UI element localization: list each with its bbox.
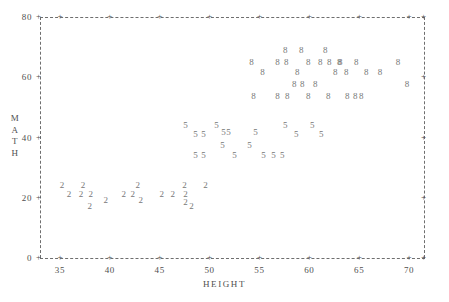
data-point-5: 5 bbox=[230, 151, 238, 160]
x-tick-mark: + bbox=[57, 253, 62, 262]
data-point-8: 8 bbox=[297, 46, 305, 55]
y-tick-mark: + bbox=[36, 253, 41, 262]
data-point-8: 8 bbox=[403, 80, 411, 89]
data-point-2: 2 bbox=[86, 202, 94, 211]
plot-frame-bottom bbox=[40, 258, 425, 259]
y-tick-mark: + bbox=[36, 133, 41, 142]
x-tick-label: 40 bbox=[98, 265, 122, 275]
x-tick-label: 55 bbox=[247, 265, 271, 275]
data-point-8: 8 bbox=[362, 68, 370, 77]
y-tick-label: 80 bbox=[6, 12, 32, 22]
x-tick-mark-top: + bbox=[257, 12, 262, 21]
y-tick-label: 0 bbox=[6, 253, 32, 263]
data-point-8: 8 bbox=[357, 92, 365, 101]
x-tick-label: 60 bbox=[297, 265, 321, 275]
data-point-2: 2 bbox=[120, 190, 128, 199]
data-point-5: 5 bbox=[200, 130, 208, 139]
y-axis-title-char: A bbox=[8, 125, 22, 137]
data-point-5: 5 bbox=[182, 121, 190, 130]
data-point-5: 5 bbox=[200, 151, 208, 160]
y-axis-title-char: H bbox=[8, 148, 22, 160]
x-tick-mark-top: + bbox=[407, 12, 412, 21]
data-point-8: 8 bbox=[293, 68, 301, 77]
data-point-8: 8 bbox=[394, 58, 402, 67]
x-tick-label: 50 bbox=[198, 265, 222, 275]
data-point-2: 2 bbox=[129, 190, 137, 199]
data-point-2: 2 bbox=[58, 181, 66, 190]
data-point-8: 8 bbox=[273, 92, 281, 101]
data-point-2: 2 bbox=[134, 181, 142, 190]
x-tick-mark: + bbox=[357, 253, 362, 262]
data-point-8: 8 bbox=[311, 80, 319, 89]
x-tick-label: 65 bbox=[347, 265, 371, 275]
y-tick-mark: + bbox=[36, 72, 41, 81]
y-tick-mark-right: + bbox=[421, 193, 426, 202]
y-tick-mark: + bbox=[36, 193, 41, 202]
x-tick-mark-top: + bbox=[57, 12, 62, 21]
data-point-8: 8 bbox=[283, 92, 291, 101]
data-point-5: 5 bbox=[308, 121, 316, 130]
data-point-5: 5 bbox=[192, 151, 200, 160]
data-point-5: 5 bbox=[219, 141, 227, 150]
data-point-8: 8 bbox=[281, 46, 289, 55]
data-point-5: 5 bbox=[278, 151, 286, 160]
y-axis-title-char: T bbox=[8, 136, 22, 148]
x-tick-mark: + bbox=[107, 253, 112, 262]
data-point-2: 2 bbox=[188, 202, 196, 211]
x-tick-mark: + bbox=[407, 253, 412, 262]
data-point-8: 8 bbox=[376, 68, 384, 77]
data-point-5: 5 bbox=[259, 151, 267, 160]
data-point-5: 5 bbox=[281, 121, 289, 130]
data-point-2: 2 bbox=[77, 190, 85, 199]
y-tick-mark-right: + bbox=[421, 72, 426, 81]
data-point-2: 2 bbox=[65, 190, 73, 199]
x-tick-mark: + bbox=[207, 253, 212, 262]
data-point-8: 8 bbox=[352, 58, 360, 67]
x-tick-mark: + bbox=[307, 253, 312, 262]
x-axis-title: HEIGHT bbox=[0, 279, 449, 289]
data-point-5: 5 bbox=[251, 128, 259, 137]
data-point-8: 8 bbox=[325, 58, 333, 67]
x-tick-mark-top: + bbox=[157, 12, 162, 21]
y-tick-label: 20 bbox=[6, 193, 32, 203]
data-point-2: 2 bbox=[102, 196, 110, 205]
y-tick-mark-right: + bbox=[421, 133, 426, 142]
data-point-8: 8 bbox=[249, 92, 257, 101]
data-point-2: 2 bbox=[202, 181, 210, 190]
data-point-8: 8 bbox=[324, 92, 332, 101]
data-point-8: 8 bbox=[247, 58, 255, 67]
data-point-8: 8 bbox=[304, 58, 312, 67]
x-tick-mark-top: + bbox=[107, 12, 112, 21]
data-point-8: 8 bbox=[331, 68, 339, 77]
y-tick-mark-right: + bbox=[421, 12, 426, 21]
data-point-8: 8 bbox=[304, 92, 312, 101]
y-tick-mark: + bbox=[36, 12, 41, 21]
x-tick-label: 35 bbox=[48, 265, 72, 275]
x-tick-mark: + bbox=[257, 253, 262, 262]
data-point-8: 8 bbox=[336, 58, 344, 67]
plot-frame-top bbox=[40, 17, 425, 18]
data-point-2: 2 bbox=[137, 196, 145, 205]
data-point-8: 8 bbox=[290, 80, 298, 89]
data-point-2: 2 bbox=[169, 190, 177, 199]
scatter-plot-figure: 0+20+40+60+80+ +35+40+45+50+55+60+65+70+… bbox=[0, 0, 449, 302]
x-tick-label: 70 bbox=[397, 265, 421, 275]
data-point-8: 8 bbox=[343, 92, 351, 101]
data-point-8: 8 bbox=[316, 58, 324, 67]
data-point-8: 8 bbox=[258, 68, 266, 77]
x-tick-mark-top: + bbox=[207, 12, 212, 21]
y-tick-mark-right: + bbox=[421, 253, 426, 262]
data-point-8: 8 bbox=[342, 68, 350, 77]
data-point-5: 5 bbox=[269, 151, 277, 160]
data-point-2: 2 bbox=[87, 190, 95, 199]
x-tick-mark-top: + bbox=[307, 12, 312, 21]
data-point-5: 5 bbox=[292, 130, 300, 139]
data-point-8: 8 bbox=[298, 80, 306, 89]
data-point-8: 8 bbox=[282, 58, 290, 67]
y-axis-title: MATH bbox=[8, 113, 22, 159]
data-point-2: 2 bbox=[158, 190, 166, 199]
x-tick-mark-top: + bbox=[357, 12, 362, 21]
y-axis-title-char: M bbox=[8, 113, 22, 125]
x-tick-label: 45 bbox=[148, 265, 172, 275]
data-point-5: 5 bbox=[225, 128, 233, 137]
